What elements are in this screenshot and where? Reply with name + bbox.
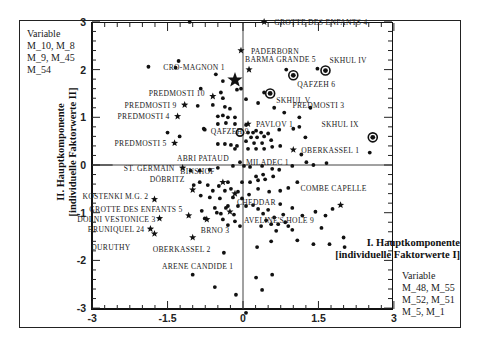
data-point-dot xyxy=(297,115,301,119)
point-label: GROTTE DES ENFANTS 5 xyxy=(89,205,182,214)
point-label: SKHUL IX xyxy=(321,120,359,129)
point-label: PREDMOSTI 4 xyxy=(118,112,170,121)
data-point-star xyxy=(337,201,344,208)
data-point-dot xyxy=(272,106,276,110)
data-point-dot xyxy=(216,114,220,118)
point-label: ABRI PATAUD xyxy=(177,154,229,163)
data-point-dot xyxy=(233,122,237,126)
data-point-dot xyxy=(290,228,294,232)
data-point-star xyxy=(174,113,181,120)
data-point-star xyxy=(237,47,244,54)
y-tick-label: 0 xyxy=(80,159,86,171)
data-point-dot xyxy=(262,147,266,151)
data-point-ring-center xyxy=(268,91,273,96)
x-axis-title-line2: [individuelle Faktorwerte I] xyxy=(300,249,460,261)
data-point-dot xyxy=(224,121,228,125)
data-point-dot xyxy=(223,189,227,193)
data-point-dot xyxy=(254,276,258,280)
data-point-dot xyxy=(256,187,260,191)
data-point-dot xyxy=(238,224,242,228)
point-label: AVELINE'S HOLE 9 xyxy=(244,216,314,225)
data-point-dot xyxy=(324,214,328,218)
data-point-dot xyxy=(221,96,225,100)
data-point-star xyxy=(189,186,196,193)
data-point-dot xyxy=(203,128,207,132)
data-point-dot xyxy=(269,239,273,243)
data-point-dot xyxy=(261,173,265,177)
data-point-star-large xyxy=(227,72,242,87)
data-point-dot xyxy=(248,180,252,184)
point-label: ST. GERMAIN xyxy=(124,164,175,173)
data-point-dot xyxy=(229,143,233,147)
x-axis-title: I. Hauptkomponente [individuelle Faktorw… xyxy=(300,237,460,261)
point-label: ARENE CANDIDE 1 xyxy=(162,262,234,271)
data-point-dot xyxy=(224,206,228,210)
point-label: DÖBRITZ xyxy=(150,175,185,184)
data-point-dot xyxy=(238,160,242,164)
data-point-dot xyxy=(218,196,222,200)
data-point-dot xyxy=(226,115,230,119)
data-point-ring-center xyxy=(291,73,296,78)
data-point-dot xyxy=(226,180,230,184)
data-point-dot xyxy=(244,311,248,315)
data-point-dot xyxy=(214,72,218,76)
x-axis-title-line1: I. Hauptkomponente xyxy=(300,237,460,249)
data-point-star xyxy=(181,101,188,108)
point-label: KOSTENKI M.G. 2 xyxy=(82,192,148,201)
point-label: BRUNIQUEL 24 xyxy=(88,225,145,234)
data-point-dot xyxy=(256,101,260,105)
data-point-star xyxy=(219,178,226,185)
data-point-dot xyxy=(240,180,244,184)
data-point-dot xyxy=(191,273,195,277)
data-point-dot xyxy=(255,135,259,139)
data-point-dot xyxy=(239,87,243,91)
data-point-dot xyxy=(200,209,204,213)
data-point-dot xyxy=(259,131,263,135)
data-point-star xyxy=(151,196,158,203)
x-tick-label: 1.5 xyxy=(311,312,326,324)
data-point-star xyxy=(147,225,154,232)
data-point-dot xyxy=(235,88,239,92)
x-variables-block: Variable M_48, M_55 M_52, M_51 M_5, M_1 xyxy=(402,270,455,318)
data-point-dot xyxy=(254,147,258,151)
data-point-dot xyxy=(178,134,182,138)
point-label: BARMA GRANDE 5 xyxy=(245,55,316,64)
data-point-dot xyxy=(221,79,225,83)
data-point-dot xyxy=(196,104,200,108)
data-point-dot xyxy=(266,208,270,212)
data-point-dot xyxy=(303,135,307,139)
x-tick-label: 3 xyxy=(391,312,397,324)
data-point-dot xyxy=(216,122,220,126)
data-point-dot xyxy=(222,251,226,255)
data-point-dot xyxy=(277,168,281,172)
data-point-dot xyxy=(331,207,335,211)
data-point-dot xyxy=(260,288,264,292)
data-point-dot xyxy=(215,211,219,215)
point-label: GROTTE DES ENFANTS 4 xyxy=(274,18,367,27)
point-label: SKHUL IV xyxy=(329,56,367,65)
data-point-dot xyxy=(246,147,250,151)
data-point-dot xyxy=(254,175,258,179)
data-point-dot xyxy=(247,193,251,197)
data-point-star xyxy=(171,139,178,146)
data-point-dot xyxy=(278,202,282,206)
data-point-dot xyxy=(249,135,253,139)
data-point-dot xyxy=(166,131,170,135)
data-point-star xyxy=(290,146,297,153)
data-point-dot xyxy=(211,103,215,107)
data-point-dot xyxy=(216,166,220,170)
data-point-star xyxy=(261,18,268,25)
point-label: COMBE CAPELLE xyxy=(301,184,367,193)
data-point-dot xyxy=(223,105,227,109)
x-tick-label: -1.5 xyxy=(159,312,177,324)
x-variables-label: Variable xyxy=(402,270,455,282)
data-point-dot xyxy=(274,229,278,233)
data-point-dot xyxy=(219,212,223,216)
data-point-star xyxy=(189,234,196,241)
data-point-dot xyxy=(270,273,274,277)
data-point-dot xyxy=(290,206,294,210)
data-point-dot xyxy=(208,196,212,200)
point-label: OBERKASSEL 1 xyxy=(301,146,359,155)
point-label: QAFZEH 9 xyxy=(211,127,249,136)
y-tick-label: 3 xyxy=(80,16,86,28)
